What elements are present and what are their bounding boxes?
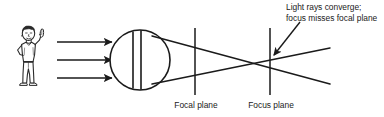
annotation-line-1: Light rays converge;: [286, 2, 361, 12]
optics-diagram-figure: Light rays converge; focus misses focal …: [0, 0, 384, 117]
observer-shoe-right: [29, 83, 37, 85]
focus-plane-label: Focus plane: [248, 100, 294, 110]
focal-plane-label: Focal plane: [174, 100, 218, 110]
observer-shoe-left: [20, 83, 28, 85]
refracted-rays: [152, 36, 330, 84]
observer-figure: [18, 26, 44, 85]
diagram-canvas: Light rays converge; focus misses focal …: [0, 0, 384, 117]
incoming-light-rays: [57, 42, 112, 78]
annotation-line-2: focus misses focal plane: [286, 13, 378, 23]
converging-ray-upper: [152, 36, 330, 84]
converging-ray-lower: [152, 48, 330, 84]
annotation-pointer-arrow: [274, 22, 300, 55]
